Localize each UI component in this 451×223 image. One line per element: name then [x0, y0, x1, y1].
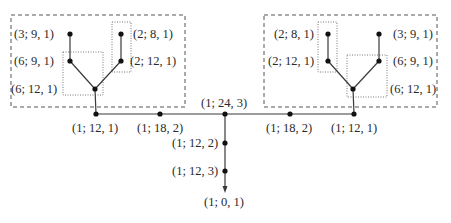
left-tree-edges — [70, 34, 121, 114]
label-right-2-8-1: (2; 8, 1) — [274, 28, 314, 41]
label-main-5: (1; 12, 1) — [331, 122, 377, 135]
label-stem-end: (1; 0, 1) — [204, 196, 244, 209]
node-left-6-12-1 — [92, 86, 97, 91]
label-stem-1: (1; 12, 2) — [172, 137, 218, 150]
arrowhead-icon — [223, 186, 228, 193]
label-stem-2: (1; 12, 3) — [172, 165, 218, 178]
node-stem-1 — [222, 140, 227, 145]
node-left-2-12-1 — [118, 58, 123, 63]
diagram-canvas — [0, 0, 451, 223]
node-left-2-8-1 — [118, 31, 123, 36]
label-left-2-12-1: (2; 12, 1) — [130, 55, 176, 68]
label-left-2-8-1: (2; 8, 1) — [133, 28, 173, 41]
node-main-3 — [222, 111, 227, 116]
label-right-2-12-1: (2; 12, 1) — [268, 55, 314, 68]
node-main-2 — [157, 111, 162, 116]
right-tree-edges — [328, 34, 379, 114]
label-main-3: (1; 24, 3) — [201, 97, 247, 110]
node-left-3-9-1 — [67, 31, 72, 36]
label-main-2: (1; 18, 2) — [137, 122, 183, 135]
node-main-4 — [287, 111, 292, 116]
label-right-6-12-1: (6; 12, 1) — [390, 83, 436, 96]
label-right-6-9-1: (6; 9, 1) — [393, 55, 433, 68]
node-main-5 — [351, 111, 356, 116]
label-left-6-12-1: (6; 12, 1) — [11, 83, 57, 96]
label-main-1: (1; 12, 1) — [72, 122, 118, 135]
label-main-4: (1; 18, 2) — [266, 122, 312, 135]
node-right-6-9-1 — [376, 58, 381, 63]
label-left-3-9-1: (3; 9, 1) — [14, 28, 54, 41]
node-stem-2 — [222, 168, 227, 173]
node-right-2-8-1 — [325, 31, 330, 36]
node-main-1 — [93, 111, 98, 116]
label-right-3-9-1: (3; 9, 1) — [393, 28, 433, 41]
main-edges — [96, 114, 354, 188]
node-right-2-12-1 — [325, 58, 330, 63]
label-left-6-9-1: (6; 9, 1) — [14, 55, 54, 68]
node-right-6-12-1 — [350, 86, 355, 91]
node-right-3-9-1 — [376, 31, 381, 36]
node-left-6-9-1 — [67, 58, 72, 63]
tree-diagram: (3; 9, 1) (6; 9, 1) (6; 12, 1) (2; 8, 1)… — [0, 0, 451, 223]
